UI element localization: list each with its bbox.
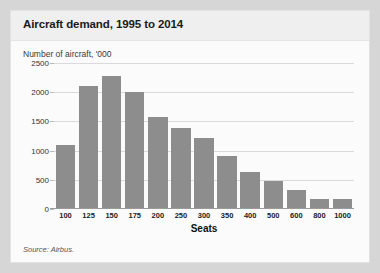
bar-slot	[331, 63, 354, 209]
bar[interactable]	[264, 181, 283, 209]
plot-wrapper: 05001000150020002500 1001251501752002503…	[23, 63, 359, 241]
source-note: Source: Airbus.	[23, 245, 74, 254]
y-axis-tick-label: 2500	[31, 59, 49, 68]
bar-slot	[54, 63, 77, 209]
bar[interactable]	[56, 145, 75, 209]
title-band: Aircraft demand, 1995 to 2014	[11, 11, 369, 41]
chart-card: Aircraft demand, 1995 to 2014 Number of …	[10, 10, 370, 263]
x-axis-line	[50, 208, 354, 209]
bar-slot	[262, 63, 285, 209]
bar-slot	[77, 63, 100, 209]
y-axis-tick-label: 0	[45, 205, 49, 214]
bar-slot	[285, 63, 308, 209]
bar[interactable]	[102, 76, 121, 209]
bar-slot	[192, 63, 215, 209]
x-axis-title: Seats	[54, 223, 354, 234]
y-axis-tick-label: 2000	[31, 88, 49, 97]
bar[interactable]	[194, 138, 213, 209]
bar[interactable]	[79, 86, 98, 209]
bar-series	[54, 63, 354, 209]
bar-slot	[216, 63, 239, 209]
y-axis-tick	[50, 209, 54, 210]
plot-area	[54, 63, 354, 209]
bar[interactable]	[287, 190, 306, 209]
page-title: Aircraft demand, 1995 to 2014	[23, 18, 183, 30]
bar[interactable]	[171, 128, 190, 209]
bar[interactable]	[240, 172, 259, 209]
y-axis-note: Number of aircraft, '000	[23, 49, 112, 59]
y-axis-labels: 05001000150020002500	[23, 63, 51, 215]
bar[interactable]	[148, 117, 167, 209]
bar-slot	[308, 63, 331, 209]
y-axis-tick-label: 1000	[31, 146, 49, 155]
bar-slot	[169, 63, 192, 209]
y-axis-tick-label: 1500	[31, 117, 49, 126]
bar-slot	[100, 63, 123, 209]
bar-slot	[239, 63, 262, 209]
bar-slot	[123, 63, 146, 209]
bar-slot	[146, 63, 169, 209]
y-axis-tick-label: 500	[36, 175, 49, 184]
bar[interactable]	[125, 92, 144, 209]
bar[interactable]	[217, 156, 236, 209]
